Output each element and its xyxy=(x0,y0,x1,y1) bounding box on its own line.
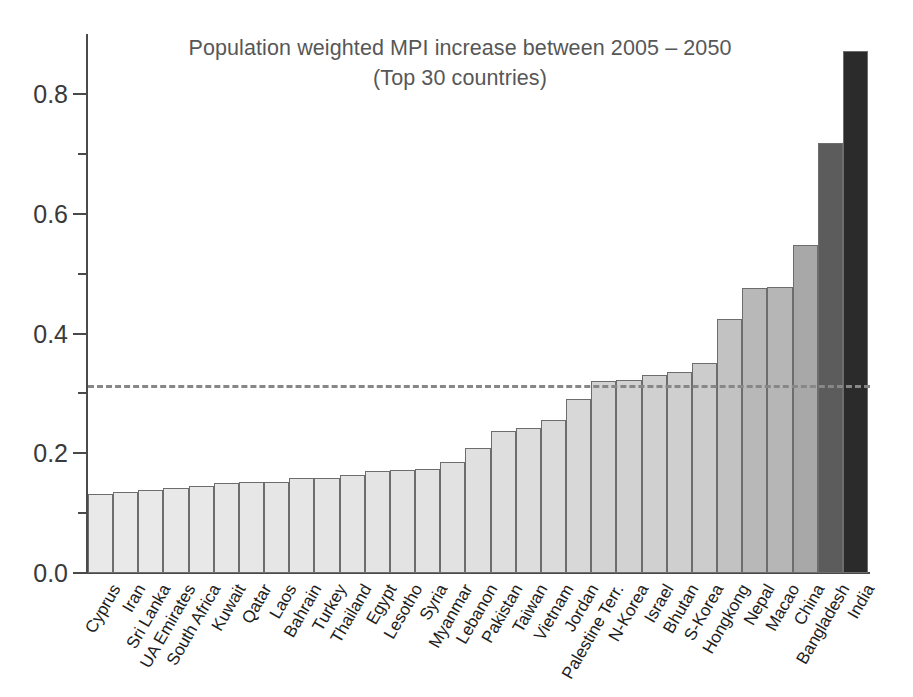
x-axis-label-lebanon: Lebanon xyxy=(452,581,502,648)
bar-pakistan[interactable] xyxy=(491,431,516,573)
bar-macao[interactable] xyxy=(767,287,792,573)
bar-kuwait[interactable] xyxy=(214,483,239,573)
y-axis-tick-label: 0.4 xyxy=(4,319,68,348)
bar-qatar[interactable] xyxy=(239,482,264,573)
x-axis-label-syria: Syria xyxy=(416,581,452,624)
x-axis-label-taiwan: Taiwan xyxy=(509,581,552,636)
y-axis-tick-minor xyxy=(78,512,86,514)
bar-iran[interactable] xyxy=(113,492,138,573)
bar-hongkong[interactable] xyxy=(717,319,742,573)
x-axis-label-nepal: Nepal xyxy=(740,581,779,629)
bar-n-korea[interactable] xyxy=(616,380,641,573)
x-axis-label-myanmar: Myanmar xyxy=(425,581,477,652)
bar-india[interactable] xyxy=(843,51,868,573)
bar-egypt[interactable] xyxy=(365,471,390,573)
x-axis-label-turkey: Turkey xyxy=(309,581,352,635)
bar-nepal[interactable] xyxy=(742,288,767,573)
x-axis-label-vietnam: Vietnam xyxy=(530,581,578,644)
x-axis-label-bahrain: Bahrain xyxy=(280,581,326,641)
x-axis-label-kuwait: Kuwait xyxy=(208,581,251,635)
bar-bahrain[interactable] xyxy=(289,478,314,573)
x-axis-label-bangladesh: Bangladesh xyxy=(793,581,855,668)
bar-turkey[interactable] xyxy=(314,478,339,573)
y-axis-tick-major xyxy=(73,93,86,95)
y-axis-tick-label: 0.0 xyxy=(4,559,68,588)
x-axis-label-israel: Israel xyxy=(641,581,679,626)
bar-bangladesh[interactable] xyxy=(818,143,843,573)
x-axis-label-jordan: Jordan xyxy=(560,581,603,636)
x-axis-label-s-korea: S-Korea xyxy=(681,581,729,644)
x-axis-label-india: India xyxy=(844,581,880,623)
x-axis-label-bhutan: Bhutan xyxy=(660,581,704,637)
x-axis-label-palestine-terr: Palestine Terr. xyxy=(558,581,628,683)
bar-palestine-terr[interactable] xyxy=(591,381,616,573)
bar-s-korea[interactable] xyxy=(692,363,717,573)
x-axis-label-iran: Iran xyxy=(118,581,150,616)
x-axis-label-hongkong: Hongkong xyxy=(698,581,754,657)
x-axis-label-thailand: Thailand xyxy=(327,581,377,647)
x-axis-label-south-africa: South Africa xyxy=(163,581,226,669)
bar-bhutan[interactable] xyxy=(667,372,692,573)
x-axis-label-ua-emirates: UA Emirates xyxy=(136,581,200,672)
bar-israel[interactable] xyxy=(642,375,667,573)
y-axis-tick-minor xyxy=(78,392,86,394)
x-axis-label-laos: Laos xyxy=(266,581,302,623)
y-axis-tick-label: 0.2 xyxy=(4,439,68,468)
y-axis-tick-minor xyxy=(78,153,86,155)
y-axis-tick-major xyxy=(73,213,86,215)
bar-vietnam[interactable] xyxy=(541,420,566,573)
x-axis-label-lesotho: Lesotho xyxy=(380,581,427,643)
x-axis-label-pakistan: Pakistan xyxy=(478,581,528,647)
x-axis-label-qatar: Qatar xyxy=(238,581,276,627)
x-axis-label-cyprus: Cyprus xyxy=(81,581,125,637)
chart-page: Population weighted MPI increase between… xyxy=(0,0,913,697)
bar-taiwan[interactable] xyxy=(516,428,541,573)
bar-syria[interactable] xyxy=(415,469,440,573)
x-axis-label-sri-lanka: Sri Lanka xyxy=(122,581,175,652)
y-axis-tick-labels: 0.00.20.40.60.8 xyxy=(0,0,68,697)
y-axis-tick-major xyxy=(73,452,86,454)
reference-line xyxy=(88,385,870,388)
bar-lesotho[interactable] xyxy=(390,470,415,573)
plot-area xyxy=(88,34,868,573)
y-axis-tick-label: 0.6 xyxy=(4,199,68,228)
bar-ua-emirates[interactable] xyxy=(163,488,188,573)
x-axis-label-n-korea: N-Korea xyxy=(605,581,654,645)
y-axis-tick-minor xyxy=(78,273,86,275)
bar-jordan[interactable] xyxy=(566,399,591,573)
bar-thailand[interactable] xyxy=(340,475,365,573)
y-axis-tick-label: 0.8 xyxy=(4,80,68,109)
y-axis-tick-major xyxy=(73,333,86,335)
bar-laos[interactable] xyxy=(264,482,289,573)
bar-south-africa[interactable] xyxy=(189,486,214,573)
bar-sri-lanka[interactable] xyxy=(138,490,163,573)
x-axis-label-china: China xyxy=(790,581,829,629)
bar-lebanon[interactable] xyxy=(465,448,490,573)
x-axis-label-macao: Macao xyxy=(762,581,805,635)
x-axis-label-egypt: Egypt xyxy=(363,581,402,628)
bar-myanmar[interactable] xyxy=(440,462,465,573)
bar-china[interactable] xyxy=(793,245,818,573)
bar-cyprus[interactable] xyxy=(88,494,113,573)
y-axis-tick-major xyxy=(73,572,86,574)
